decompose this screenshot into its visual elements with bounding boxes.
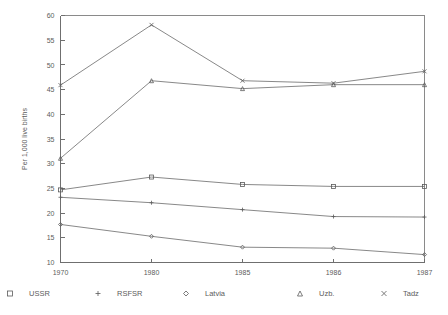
- legend-marker-plus-icon: [96, 291, 101, 296]
- legend-marker-cross-icon: [382, 291, 387, 296]
- x-tick-label: 1986: [326, 269, 342, 276]
- legend-label: USSR: [29, 289, 50, 298]
- line-chart: 1015202530354045505560 19701980198519861…: [0, 0, 448, 315]
- data-point: [150, 23, 154, 27]
- legend-item-ussr[interactable]: USSR: [8, 289, 51, 298]
- legend-item-uzb[interactable]: Uzb.: [298, 289, 335, 298]
- y-tick-label: 30: [47, 160, 55, 167]
- legend-item-tadz[interactable]: Tadz: [382, 289, 420, 298]
- legend-item-latvia[interactable]: Latvia: [184, 289, 226, 298]
- legend-label: Tadz: [403, 289, 419, 298]
- legend-marker-triangle-icon: [298, 291, 303, 296]
- y-tick-label: 45: [47, 86, 55, 93]
- y-axis-ticks: 1015202530354045505560: [47, 12, 65, 266]
- y-tick-label: 10: [47, 259, 55, 266]
- legend-marker-square-icon: [8, 291, 13, 296]
- y-tick-label: 35: [47, 136, 55, 143]
- data-point: [241, 208, 245, 212]
- y-tick-label: 20: [47, 210, 55, 217]
- legend-marker-diamond-icon: [184, 291, 189, 296]
- y-axis-title-text: Per 1,000 live births: [21, 108, 28, 170]
- chart-legend: USSRRSFSRLatviaUzb.Tadz: [8, 289, 420, 298]
- y-tick-label: 15: [47, 234, 55, 241]
- data-point: [423, 215, 427, 219]
- y-tick-label: 55: [47, 37, 55, 44]
- legend-label: RSFSR: [117, 289, 143, 298]
- plot-frame: [61, 16, 425, 263]
- y-tick-label: 40: [47, 111, 55, 118]
- y-tick-label: 25: [47, 185, 55, 192]
- plot-area: 1015202530354045505560 19701980198519861…: [0, 0, 448, 315]
- x-tick-label: 1980: [144, 269, 160, 276]
- series-lines: [59, 23, 427, 257]
- data-point: [59, 195, 63, 199]
- series-tadz: [59, 23, 427, 87]
- series-ussr: [59, 175, 427, 192]
- x-axis-ticks: 19701980198519861987: [53, 259, 433, 276]
- legend-label: Latvia: [205, 289, 226, 298]
- x-tick-label: 1985: [235, 269, 251, 276]
- y-tick-label: 60: [47, 12, 55, 19]
- x-tick-label: 1987: [417, 269, 433, 276]
- series-latvia: [59, 222, 427, 256]
- x-tick-label: 1970: [53, 269, 69, 276]
- series-rsfsr: [59, 195, 427, 219]
- data-point: [332, 215, 336, 219]
- y-tick-label: 50: [47, 62, 55, 69]
- legend-item-rsfsr[interactable]: RSFSR: [96, 289, 144, 298]
- data-point: [150, 201, 154, 205]
- legend-label: Uzb.: [319, 289, 334, 298]
- y-axis-title: Per 1,000 live births: [21, 108, 28, 170]
- series-uzb: [59, 79, 427, 161]
